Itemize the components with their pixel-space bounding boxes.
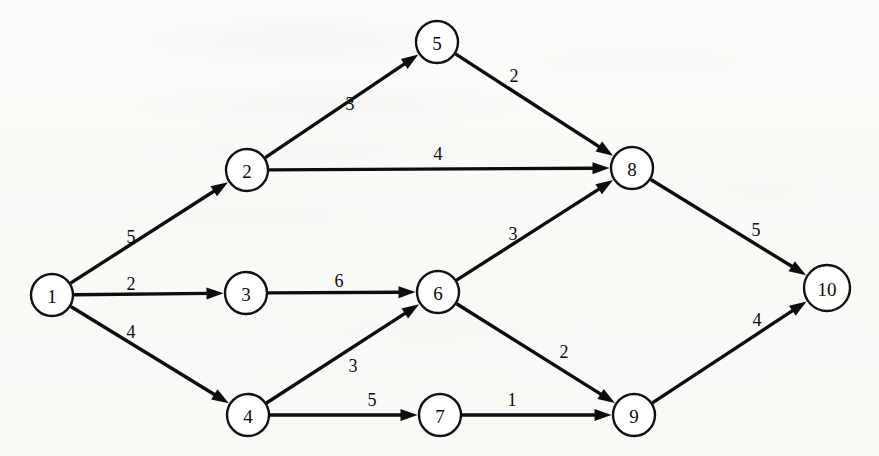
edge-weight-4-6: 3: [349, 356, 358, 376]
edges-layer: [71, 54, 807, 421]
node-label-4: 4: [243, 406, 253, 427]
arrow-head-icon: [211, 182, 229, 196]
edge-4-to-6: [266, 304, 419, 403]
arrow-head-icon: [596, 142, 614, 156]
edge-weight-7-9: 1: [508, 390, 517, 410]
node-3[interactable]: 3: [225, 272, 267, 314]
arrow-head-icon: [597, 389, 615, 403]
arrow-head-icon: [402, 304, 420, 318]
node-label-5: 5: [432, 33, 442, 54]
edge-weight-4-7: 5: [368, 390, 377, 410]
node-7[interactable]: 7: [419, 394, 461, 436]
arrow-head-icon: [401, 55, 418, 69]
edge-1-to-3: [74, 287, 224, 299]
arrow-head-icon: [206, 287, 223, 299]
node-2[interactable]: 2: [226, 149, 268, 191]
node-4[interactable]: 4: [227, 394, 269, 436]
arrow-head-icon: [592, 162, 609, 174]
edge-9-to-10: [652, 301, 806, 402]
node-5[interactable]: 5: [416, 21, 458, 63]
arrow-head-icon: [789, 261, 807, 275]
arrow-head-icon: [595, 409, 612, 421]
node-label-10: 10: [818, 279, 837, 300]
edge-7-to-9: [462, 409, 612, 421]
node-label-7: 7: [435, 406, 445, 427]
edge-weight-8-10: 5: [752, 220, 761, 240]
node-label-1: 1: [47, 286, 57, 307]
edge-8-to-10: [651, 180, 806, 276]
node-9[interactable]: 9: [613, 394, 655, 436]
edge-4-to-7: [270, 409, 418, 421]
edge-weight-3-6: 6: [335, 271, 344, 291]
edge-weight-1-2: 5: [127, 227, 136, 247]
arrow-head-icon: [211, 389, 229, 403]
edge-2-to-8: [269, 162, 610, 174]
edge-weight-6-9: 2: [560, 342, 569, 362]
arrow-head-icon: [789, 301, 806, 315]
node-label-6: 6: [433, 283, 443, 304]
diagram-page: 12345678910 52434635232154: [0, 0, 879, 456]
edge-weight-5-8: 2: [510, 66, 519, 86]
edge-1-to-2: [71, 182, 229, 283]
edge-weight-2-8: 4: [434, 144, 443, 164]
node-label-3: 3: [241, 284, 251, 305]
node-label-9: 9: [629, 406, 639, 427]
node-10[interactable]: 10: [804, 265, 850, 311]
edge-5-to-8: [455, 54, 613, 156]
edge-weights-layer: 52434635232154: [127, 66, 762, 410]
node-1[interactable]: 1: [31, 274, 73, 316]
arrow-head-icon: [401, 409, 418, 421]
network-graph: 12345678910 52434635232154: [0, 0, 879, 456]
node-label-8: 8: [627, 159, 637, 180]
node-6[interactable]: 6: [417, 271, 459, 313]
arrow-head-icon: [595, 180, 613, 194]
node-label-2: 2: [242, 161, 252, 182]
edge-1-to-4: [71, 306, 229, 403]
edge-2-to-5: [265, 55, 418, 158]
edge-weight-2-5: 3: [346, 94, 355, 114]
edge-weight-6-8: 3: [509, 224, 518, 244]
edge-weight-1-4: 4: [127, 322, 136, 342]
arrow-head-icon: [398, 286, 415, 298]
edge-6-to-9: [457, 304, 615, 403]
edge-6-to-8: [457, 180, 614, 280]
edge-weight-9-10: 4: [753, 310, 762, 330]
node-8[interactable]: 8: [611, 147, 653, 189]
edge-weight-1-3: 2: [127, 274, 136, 294]
